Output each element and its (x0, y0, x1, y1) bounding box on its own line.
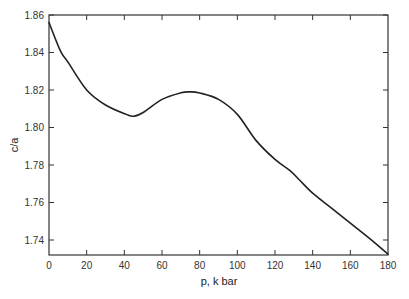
data-line-c-over-a (49, 23, 388, 255)
y-tick-label: 1.74 (25, 235, 45, 246)
y-tick-label: 1.82 (25, 85, 45, 96)
y-axis-ticks (49, 15, 388, 240)
x-tick-label: 0 (46, 260, 52, 271)
y-tick-label: 1.86 (25, 10, 45, 21)
y-tick-label: 1.76 (25, 197, 45, 208)
y-tick-label: 1.84 (25, 47, 45, 58)
x-axis-ticks (87, 15, 351, 255)
x-tick-label: 80 (194, 260, 206, 271)
x-axis-label: p, k bar (201, 275, 238, 287)
x-tick-label: 140 (304, 260, 321, 271)
x-tick-label: 160 (342, 260, 359, 271)
plot-frame (49, 15, 388, 255)
y-tick-label: 1.80 (25, 122, 45, 133)
x-tick-label: 20 (81, 260, 93, 271)
y-axis-label: c/a (8, 137, 20, 153)
x-tick-label: 100 (229, 260, 246, 271)
x-tick-label: 180 (380, 260, 397, 271)
y-axis-tick-labels: 1.741.761.781.801.821.841.86 (25, 10, 45, 246)
x-axis-tick-labels: 020406080100120140160180 (46, 260, 397, 271)
y-tick-label: 1.78 (25, 160, 45, 171)
figure-caption (0, 292, 409, 299)
x-tick-label: 40 (119, 260, 131, 271)
chart: 020406080100120140160180 1.741.761.781.8… (0, 0, 409, 299)
x-tick-label: 120 (267, 260, 284, 271)
x-tick-label: 60 (156, 260, 168, 271)
